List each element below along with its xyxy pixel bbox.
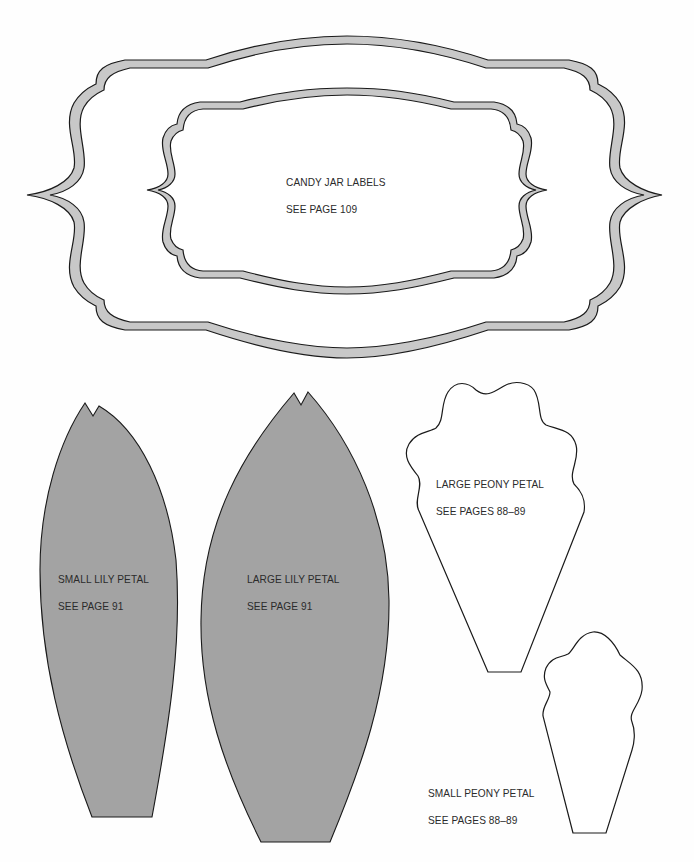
large-lily-petal-title: LARGE LILY PETAL — [247, 573, 340, 585]
template-page: CANDY JAR LABELS SEE PAGE 109 SMALL LILY… — [0, 0, 694, 862]
large-lily-petal-caption: LARGE LILY PETAL SEE PAGE 91 — [247, 572, 340, 613]
small-peony-petal-title: SMALL PEONY PETAL — [428, 787, 534, 799]
candy-jar-labels-caption: CANDY JAR LABELS SEE PAGE 109 — [286, 175, 386, 216]
large-peony-petal-shape — [406, 383, 584, 672]
small-lily-petal-caption: SMALL LILY PETAL SEE PAGE 91 — [58, 572, 149, 613]
candy-jar-labels-reference: SEE PAGE 109 — [286, 202, 386, 216]
small-peony-petal-caption: SMALL PEONY PETAL SEE PAGES 88–89 — [428, 786, 534, 827]
large-lily-petal-shape — [201, 392, 389, 842]
large-peony-petal-reference: SEE PAGES 88–89 — [436, 504, 544, 518]
template-shapes — [0, 0, 694, 862]
small-lily-petal-reference: SEE PAGE 91 — [58, 599, 149, 613]
large-peony-petal-caption: LARGE PEONY PETAL SEE PAGES 88–89 — [436, 477, 544, 518]
small-lily-petal-title: SMALL LILY PETAL — [58, 573, 149, 585]
large-lily-petal-reference: SEE PAGE 91 — [247, 599, 340, 613]
large-peony-petal-title: LARGE PEONY PETAL — [436, 478, 544, 490]
small-peony-petal-shape — [543, 632, 642, 833]
candy-jar-labels-title: CANDY JAR LABELS — [286, 176, 386, 188]
small-peony-petal-reference: SEE PAGES 88–89 — [428, 813, 534, 827]
